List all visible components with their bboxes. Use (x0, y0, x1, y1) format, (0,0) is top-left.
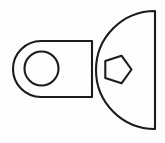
lug-through-hole (25, 52, 59, 86)
drawing-canvas: Mechanical part outline drawing Two-dime… (0, 0, 165, 143)
part-outline-figure: Mechanical part outline drawing Two-dime… (0, 0, 165, 143)
